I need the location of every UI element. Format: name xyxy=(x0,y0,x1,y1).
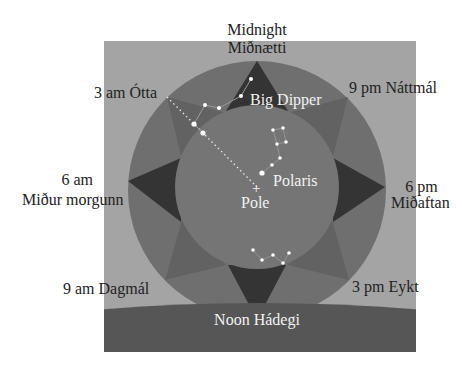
eykt-sky-clock-diagram: Midnight Miðnætti 3 am Ótta 9 pm Náttmál… xyxy=(0,0,469,372)
label-polaris: Polaris xyxy=(273,172,317,190)
label-midaftan: Miðaftan xyxy=(391,194,450,212)
label-9pm-nattmal: 9 pm Náttmál xyxy=(349,79,437,97)
label-pole: Pole xyxy=(241,194,269,212)
label-3pm-eykt: 3 pm Eykt xyxy=(352,278,419,296)
label-6am: 6 am xyxy=(20,171,93,189)
label-3am-otta: 3 am Ótta xyxy=(40,84,157,102)
label-big-dipper: Big Dipper xyxy=(250,91,322,109)
label-midnight: Midnight xyxy=(207,21,307,39)
polaris-star xyxy=(259,170,264,175)
label-midnatti: Miðnætti xyxy=(207,39,307,57)
label-midur-morgunn: Miður morgunn xyxy=(22,191,123,209)
label-noon-hadegi: Noon Hádegi xyxy=(207,311,307,329)
label-9am-dagmal: 9 am Dagmál xyxy=(63,280,149,298)
